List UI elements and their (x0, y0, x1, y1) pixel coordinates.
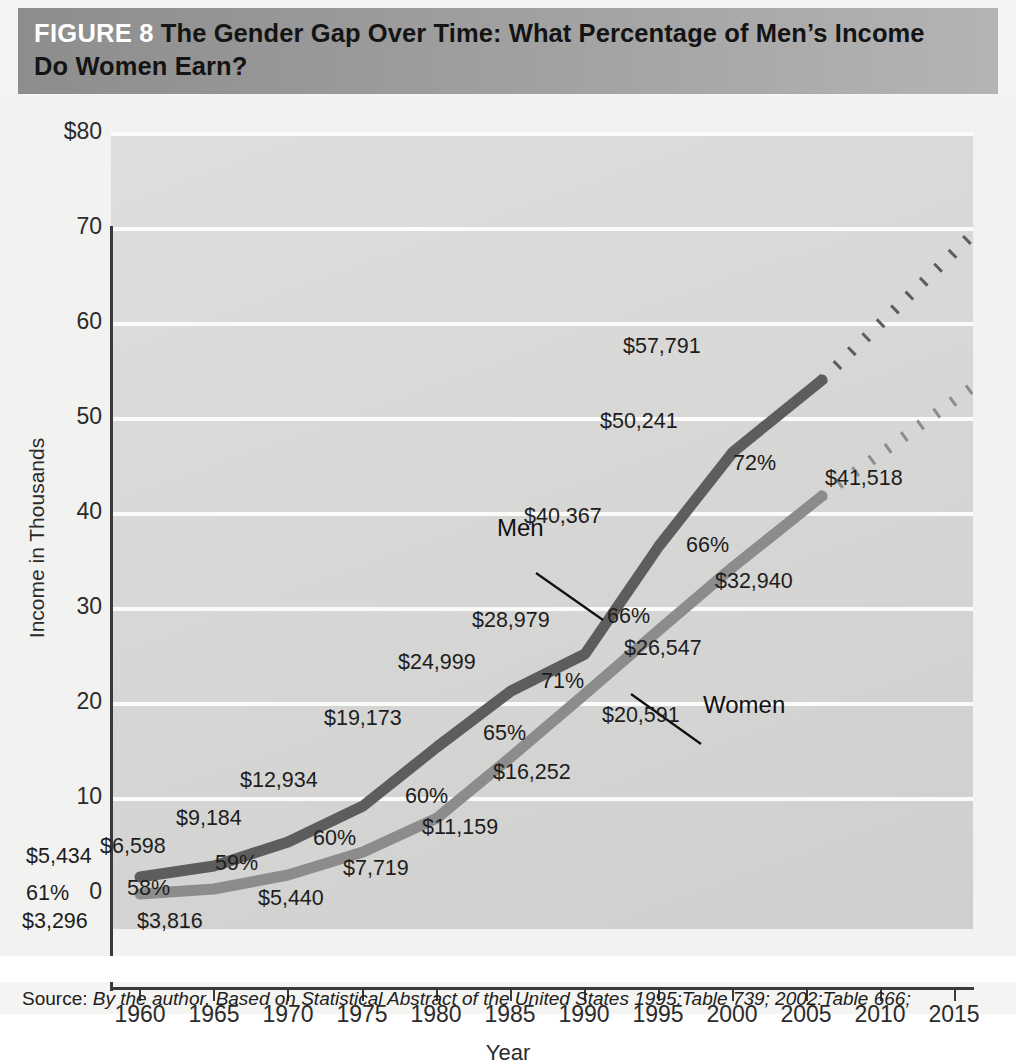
y-label-20: 20 (76, 688, 102, 715)
ratio-label-1985: 65% (483, 721, 526, 746)
men-value-1960: $5,434 (26, 844, 92, 869)
ratio-label-1975: 60% (313, 826, 356, 851)
women-value-2000: $32,940 (715, 569, 793, 594)
figure-header-band: FIGURE 8 The Gender Gap Over Time: What … (18, 8, 998, 94)
women-value-1960: $3,296 (22, 909, 88, 934)
men-value-1965: $6,598 (100, 834, 166, 859)
ratio-label-1980: 60% (405, 784, 448, 809)
women-value-1995: $26,547 (624, 636, 702, 661)
source-prefix: Source: (22, 988, 87, 1009)
ratio-label-1995: 66% (607, 604, 650, 629)
figure-title-line-1: The Gender Gap Over Time: What Percentag… (161, 19, 925, 47)
women-value-1975: $7,719 (343, 856, 409, 881)
y-label-80: $80 (64, 118, 102, 145)
women-value-1965: $3,816 (137, 909, 203, 934)
y-label-60: 60 (76, 308, 102, 335)
series-label-men: Men (497, 514, 544, 542)
men-value-2006: $57,791 (623, 334, 701, 359)
ratio-label-1960: 61% (26, 881, 69, 906)
ratio-label-2000: 66% (686, 533, 729, 558)
women-value-1980: $11,159 (422, 815, 498, 840)
y-label-30: 30 (76, 593, 102, 620)
figure-source: Source: By the author. Based on Statisti… (22, 988, 1012, 1010)
ratio-label-1965: 58% (127, 876, 170, 901)
figure-number: 8 (139, 19, 153, 47)
men-value-1970: $9,184 (176, 806, 242, 831)
x-axis-title: Year (0, 1040, 1016, 1064)
men-value-1975: $12,934 (240, 768, 318, 793)
men-value-1990: $28,979 (472, 608, 550, 633)
ratio-label-1970: 59% (215, 851, 258, 876)
y-label-40: 40 (76, 498, 102, 525)
figure-word: FIGURE (34, 19, 132, 47)
y-label-0: 0 (89, 878, 102, 905)
ratio-label-2006: 72% (733, 451, 776, 476)
ratio-label-1990: 71% (541, 669, 584, 694)
y-label-50: 50 (76, 403, 102, 430)
y-axis-line (110, 226, 113, 991)
men-value-1980: $19,173 (324, 706, 402, 731)
men-projection-line (822, 234, 973, 380)
figure-header-line-1: FIGURE 8 The Gender Gap Over Time: What … (34, 17, 984, 50)
source-text: By the author. Based on Statistical Abst… (93, 988, 911, 1009)
women-value-1990: $20,591 (602, 703, 680, 728)
bottom-white-strip (0, 956, 1016, 982)
women-value-2006: $41,518 (825, 466, 903, 491)
y-label-70: 70 (76, 213, 102, 240)
figure-header-line-2: Do Women Earn? (34, 50, 984, 83)
y-axis-title: Income in Thousands (25, 423, 49, 653)
chart-container: $80 70 60 50 40 30 20 10 0 1960 1965 197… (0, 96, 1016, 956)
men-value-1985: $24,999 (398, 650, 476, 675)
y-label-10: 10 (76, 783, 102, 810)
series-label-women: Women (703, 691, 785, 719)
figure-title-line-2: Do Women Earn? (34, 52, 247, 80)
women-value-1970: $5,440 (258, 886, 324, 911)
men-value-2000: $50,241 (600, 409, 678, 434)
women-value-1985: $16,252 (493, 760, 571, 785)
